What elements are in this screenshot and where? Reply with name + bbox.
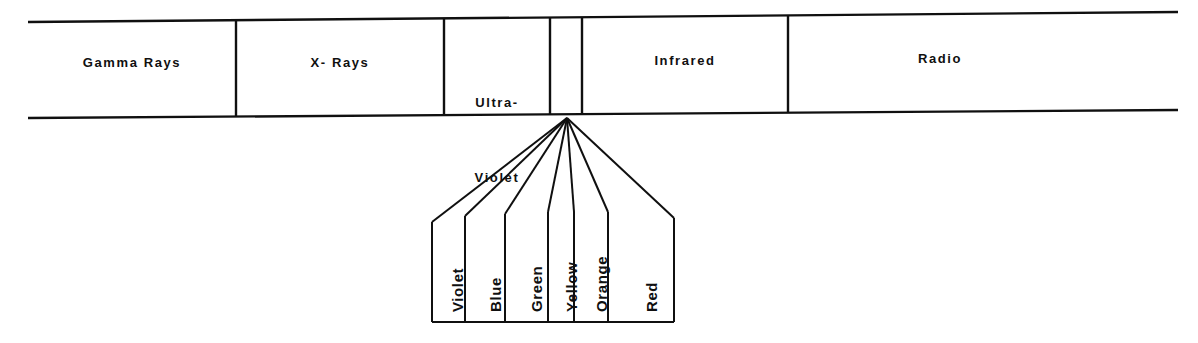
- color-label-yellow: Yellow: [563, 262, 580, 312]
- band-label-ultra-violet: Ultra- Violet: [444, 40, 550, 240]
- spectrum-bar-top-line: [28, 12, 1178, 22]
- fan-line-red-right: [567, 118, 674, 218]
- band-label-radio: Radio: [788, 48, 1092, 69]
- band-label-ultra-violet-line2: Violet: [444, 165, 550, 190]
- color-label-blue: Blue: [487, 277, 504, 312]
- electromagnetic-spectrum-figure: Gamma Rays X- Rays Ultra- Violet Infrare…: [0, 0, 1198, 343]
- band-label-infrared: Infrared: [582, 50, 788, 71]
- color-label-red: Red: [643, 282, 660, 312]
- color-label-orange: Orange: [593, 256, 610, 312]
- band-label-ultra-violet-line1: Ultra-: [444, 90, 550, 115]
- band-label-gamma-rays: Gamma Rays: [28, 52, 236, 73]
- color-label-green: Green: [528, 266, 545, 312]
- band-label-x-rays: X- Rays: [236, 52, 444, 73]
- spectrum-bar-bottom-line: [28, 110, 1178, 118]
- color-label-violet: Violet: [449, 268, 466, 312]
